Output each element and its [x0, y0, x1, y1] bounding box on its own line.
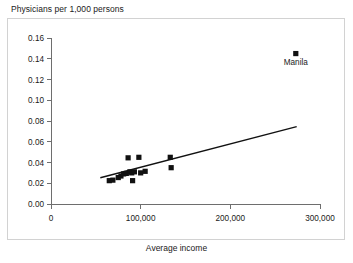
data-point-marker [143, 169, 148, 174]
data-point-label: Manila [284, 58, 309, 67]
x-tick-label: 300,000 [305, 214, 335, 223]
data-point-marker [169, 165, 174, 170]
y-tick-label: 0.04 [28, 159, 44, 168]
point-annotations-group: Manila [284, 58, 309, 67]
y-axis: 0.000.020.040.060.080.100.120.140.16 [28, 34, 51, 209]
y-tick-label: 0.00 [28, 200, 44, 209]
y-tick-label: 0.02 [28, 179, 44, 188]
x-tick-label: 100,000 [126, 214, 156, 223]
x-tick-label: 200,000 [216, 214, 246, 223]
y-tick-label: 0.08 [28, 117, 44, 126]
data-point-marker [293, 51, 298, 56]
data-points-group [107, 51, 299, 183]
data-point-marker [130, 178, 135, 183]
data-point-marker [110, 178, 115, 183]
x-axis: 0100,000200,000300,000 [49, 204, 336, 223]
scatter-plot-svg: 0.000.020.040.060.080.100.120.140.16 010… [0, 0, 353, 263]
y-tick-label: 0.12 [28, 76, 44, 85]
data-point-marker [126, 155, 131, 160]
y-tick-label: 0.14 [28, 55, 44, 64]
y-tick-label: 0.10 [28, 96, 44, 105]
data-point-marker [168, 155, 173, 160]
x-axis-label: Average income [0, 243, 353, 253]
y-tick-label: 0.06 [28, 138, 44, 147]
x-tick-label: 0 [49, 214, 54, 223]
data-point-marker [138, 170, 143, 175]
chart-container: Physicians per 1,000 persons 0.000.020.0… [0, 0, 353, 263]
data-point-marker [132, 169, 137, 174]
data-point-marker [136, 155, 141, 160]
y-tick-label: 0.16 [28, 34, 44, 43]
